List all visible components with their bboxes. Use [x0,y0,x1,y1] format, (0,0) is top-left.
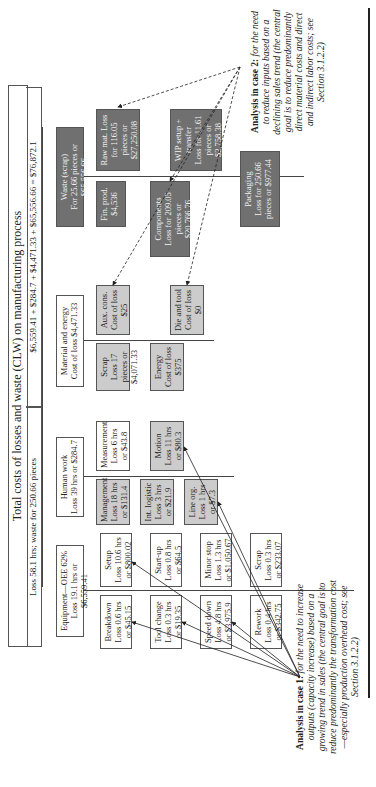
item-raw-mat: Raw mat. Lossfor 116.05 pieces or $27,25… [96,109,140,171]
clw-diagram: Total costs of losses and waste (CLW) on… [0,0,376,787]
diagram-title: Total costs of losses and waste (CLW) on… [8,85,28,647]
note-analysis-case-1: Analysis in case 1: for the need to incr… [295,577,361,757]
note-analysis-case-2: Analysis in case 2: for the need to redu… [250,7,327,137]
item-start-up: Start-upLoss 0.8 hrs or $64.5 [150,533,182,587]
category-material-energy: Material and energyCost of loss $4,471.3… [56,295,84,387]
item-line-org: Line org.Loss 1 hrs or $7.3 [184,479,218,525]
category-waste: Waste (scrap)For 25.66 pieces or $65,556… [56,127,84,227]
item-fin-prod: Fin. prod.$4,536 [96,181,126,227]
summary-cost: $6,559.41 + $284.7 + $4,471.33 + $65,556… [26,87,42,407]
category-human-work: Human workLoss 39 hrs or $284.7 [56,437,84,517]
item-scrap-material: ScrapLoss 17 pieces or $4,071.33 [96,343,130,391]
item-packaging: PackagingLoss for 250.66 pieces or $977.… [240,151,280,227]
summary-row: Loss 58.1 hrs; waste for 250.66 pieces $… [26,87,42,647]
item-tool-change: Tool changeLoss 0.3 hrs or $19.35 [150,595,182,649]
item-rework: ReworkLoss 0.4 hrs or $342.75 [250,595,282,649]
category-equipment: Equipment—OEE 62%Loss 19.1 hrs or $6,559… [56,545,84,637]
item-breakdown: BreakdownLoss 0.6 hrs or $45.15 [100,595,132,649]
summary-loss: Loss 58.1 hrs; waste for 250.66 pieces [26,407,42,647]
item-measurement: MeasurementLoss 6 hrs or $43.8 [96,421,130,471]
connector [42,127,43,587]
item-motion: MotionLoss 11 hrs or $80.3 [150,421,184,471]
item-setup: SetupLoss 10.6 hrs or $800.02 [100,533,132,587]
item-management: ManagementLoss 18 hrs or $131.4 [96,479,130,525]
item-int-logistic: Int. logisticLoss 3 hrs or $21.9 [140,479,174,525]
material-spine [84,340,214,341]
item-scrap-equipment: ScrapLoss 0.3 hrs or $233.07 [250,533,282,587]
item-minor-stop: Minor stopLoss 1.3 hrs or $1,050.67 [200,533,232,587]
item-aux-cons: Aux. cons.Cost of loss $25 [96,285,130,335]
item-die-and-tool: Die and toolCost of loss $0 [170,285,204,335]
item-wip-setup-transfer: WIP setup + transferLoss for 11.61 piece… [170,109,222,171]
item-energy: EnergyCost of loss $375 [150,343,184,391]
item-speed-down: Speed downLoss 4.8 hrs or $3,975.9 [200,595,232,649]
item-components: ComponentsLoss for 209.05 pieces or $20,… [150,181,190,257]
